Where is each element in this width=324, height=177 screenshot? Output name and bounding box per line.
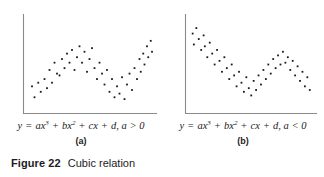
data-point (226, 67, 228, 69)
data-point (223, 56, 225, 58)
data-point (248, 87, 250, 89)
data-point (51, 82, 53, 84)
data-point (209, 42, 211, 44)
figure-caption: Figure 22Cubic relation (11, 157, 135, 169)
data-point (297, 65, 299, 67)
equation-a-plus1: + (51, 120, 59, 131)
data-point (104, 84, 106, 86)
data-point (309, 89, 311, 91)
figure-panel-b: y = ax3 + bx2 + cx + d, a < 0 (b) (162, 0, 324, 155)
equation-a-lhs: y (18, 120, 23, 131)
equation-a-term4: d, (111, 120, 119, 131)
scatter-plot-b (162, 0, 324, 120)
data-points-a (31, 40, 153, 100)
equation-a-term3-var: x (93, 120, 98, 131)
data-point (228, 78, 230, 80)
data-point (64, 67, 66, 69)
equation-a-term2-exp: 2 (72, 119, 76, 127)
data-point (265, 78, 267, 80)
data-point (214, 64, 216, 66)
data-point (287, 56, 289, 58)
data-point (233, 75, 235, 77)
data-point (37, 82, 39, 84)
data-point (144, 64, 146, 66)
panel-letter-a: (a) (0, 136, 162, 146)
equation-b-plus2: + (240, 120, 248, 131)
data-point (200, 49, 202, 51)
data-point (238, 71, 240, 73)
equation-a-term1-exp: 3 (45, 119, 49, 127)
equation-a-condition: a > 0 (122, 120, 145, 131)
data-point (198, 38, 200, 40)
equation-a-equals: = (25, 120, 33, 131)
data-point (195, 27, 197, 29)
equation-b-lhs: y (180, 120, 185, 131)
data-point (84, 51, 86, 53)
data-point (221, 71, 223, 73)
data-point (40, 91, 42, 93)
data-point (294, 75, 296, 77)
data-point (136, 78, 138, 80)
scatter-plot-a-svg (0, 0, 162, 120)
equation-b-term1-exp: 3 (207, 119, 211, 127)
data-point (34, 96, 36, 98)
data-point (284, 62, 286, 64)
data-point (139, 58, 141, 60)
data-point (79, 45, 81, 47)
equation-b-term2-exp: 2 (234, 119, 238, 127)
data-point (275, 67, 277, 69)
data-point (91, 47, 93, 49)
data-point (258, 75, 260, 77)
data-point (267, 64, 269, 66)
data-point (74, 69, 76, 71)
data-point (106, 69, 108, 71)
data-point (231, 64, 233, 66)
data-point (111, 78, 113, 80)
data-point (126, 84, 128, 86)
equation-b-plus3: + (263, 120, 271, 131)
data-point (304, 85, 306, 87)
panel-letter-b: (b) (162, 136, 324, 146)
data-point (101, 73, 103, 75)
data-point (193, 44, 195, 46)
data-point (131, 89, 133, 91)
data-point (44, 78, 46, 80)
data-point (270, 73, 272, 75)
data-point (142, 53, 144, 55)
data-point (146, 45, 148, 47)
data-point (306, 76, 308, 78)
equation-b-plus1: + (213, 120, 221, 131)
data-point (277, 55, 279, 57)
data-point (66, 53, 68, 55)
data-point (119, 93, 121, 95)
data-point (245, 76, 247, 78)
data-point (109, 91, 111, 93)
scatter-plot-b-svg (162, 0, 324, 120)
equation-label-a: y = ax3 + bx2 + cx + d, a > 0 (0, 119, 162, 132)
data-point (150, 40, 152, 42)
data-point (147, 56, 149, 58)
equation-b-term4: d, (273, 120, 281, 131)
data-point (151, 51, 153, 53)
data-point (263, 69, 265, 71)
data-point (114, 96, 116, 98)
data-point (81, 62, 83, 64)
data-point (253, 80, 255, 82)
data-point (289, 69, 291, 71)
equation-b-condition: a < 0 (284, 120, 307, 131)
data-point (69, 62, 71, 64)
data-point (203, 34, 205, 36)
data-point (54, 62, 56, 64)
data-point (46, 87, 48, 89)
equation-b-equals: = (187, 120, 195, 131)
data-point (56, 73, 58, 75)
data-point (260, 84, 262, 86)
data-point (282, 51, 284, 53)
data-point (255, 89, 257, 91)
data-point (206, 56, 208, 58)
data-point (272, 58, 274, 60)
data-point (241, 82, 243, 84)
data-point (211, 53, 213, 55)
data-point (140, 71, 142, 73)
equation-b-term3-var: x (255, 120, 260, 131)
